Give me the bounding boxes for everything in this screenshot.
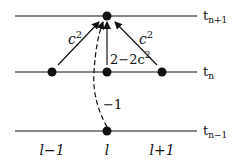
space-label-l-plus-1: l+1 (149, 142, 174, 158)
space-label-l: l (105, 142, 109, 158)
weight-right: c2 (139, 29, 153, 47)
time-label-n-minus-1: tn−1 (203, 123, 227, 140)
time-label-n-plus-1: tn+1 (203, 8, 227, 25)
point-left (48, 68, 57, 77)
point-past (103, 127, 112, 136)
point-center (103, 68, 112, 77)
point-target (103, 12, 112, 21)
weight-left: c2 (68, 29, 82, 47)
space-label-l-minus-1: l−1 (39, 142, 64, 158)
time-label-n: tn (203, 64, 214, 81)
stencil-diagram: c2 c2 2−2c2 −1 tn+1 tn tn−1 l−1 l l+1 (0, 0, 239, 161)
weight-past: −1 (103, 97, 122, 112)
point-right (158, 68, 167, 77)
weight-center: 2−2c2 (110, 50, 150, 67)
